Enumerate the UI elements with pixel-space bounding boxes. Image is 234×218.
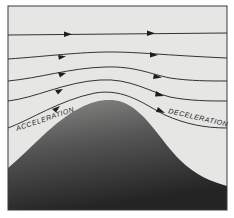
airflow-diagram: ACCELERATION DECELERATION — [0, 0, 234, 218]
